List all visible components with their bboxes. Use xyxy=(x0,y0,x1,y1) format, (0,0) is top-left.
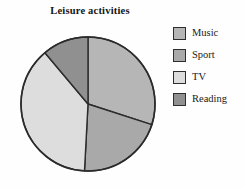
legend-swatch-music xyxy=(173,27,186,40)
legend-item-tv[interactable]: TV xyxy=(173,66,245,88)
legend-item-reading[interactable]: Reading xyxy=(173,88,245,110)
legend-item-sport[interactable]: Sport xyxy=(173,44,245,66)
legend-label-reading: Reading xyxy=(192,94,227,105)
legend-swatch-tv xyxy=(173,71,186,84)
legend-swatch-sport xyxy=(173,49,186,62)
legend-label-music: Music xyxy=(192,28,218,39)
legend-swatch-reading xyxy=(173,93,186,106)
pie-chart-plot-area xyxy=(20,23,158,185)
legend-label-sport: Sport xyxy=(192,50,215,61)
legend-label-tv: TV xyxy=(192,72,206,83)
legend-item-music[interactable]: Music xyxy=(173,22,245,44)
pie-slice-group xyxy=(21,37,155,171)
chart-legend: Music Sport TV Reading xyxy=(173,22,245,110)
pie-chart-svg xyxy=(20,23,158,185)
pie-chart-figure: Leisure activities Music Sport TV Readin… xyxy=(0,0,245,189)
chart-title: Leisure activities xyxy=(20,5,160,16)
